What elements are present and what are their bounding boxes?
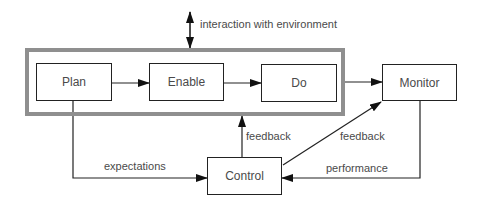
label-feedback-to-group: feedback — [246, 130, 291, 142]
node-enable: Enable — [149, 63, 224, 101]
node-enable-label: Enable — [168, 75, 205, 89]
node-plan: Plan — [36, 63, 112, 101]
label-feedback-to-monitor: feedback — [340, 130, 385, 142]
node-control-label: Control — [225, 169, 264, 183]
node-plan-label: Plan — [62, 75, 86, 89]
node-monitor: Monitor — [382, 64, 457, 101]
label-performance: performance — [326, 162, 388, 174]
node-do: Do — [261, 64, 337, 102]
node-do-label: Do — [291, 76, 306, 90]
node-monitor-label: Monitor — [399, 76, 439, 90]
label-environment: interaction with environment — [200, 18, 337, 30]
node-control: Control — [207, 157, 282, 195]
label-expectations: expectations — [104, 160, 166, 172]
